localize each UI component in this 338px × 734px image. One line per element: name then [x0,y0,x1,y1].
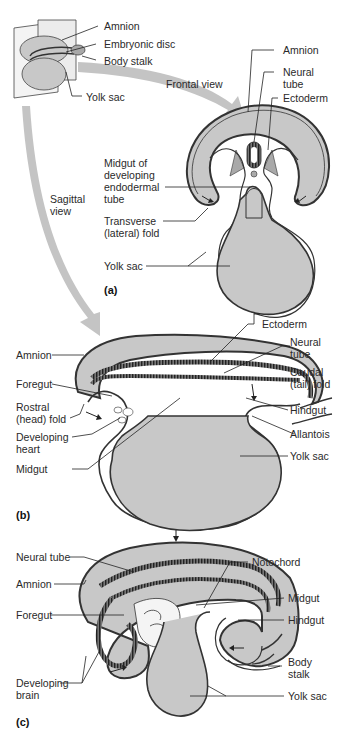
inset-label-yolk-sac: Yolk sac [86,91,125,103]
b-label-allantois: Allantois [290,428,330,440]
b-label-caudal-2: (tail) fold [290,378,330,390]
frontal-view-label: Frontal view [166,78,223,90]
b-label-rostral-1: Rostral [16,401,49,413]
c-label-body-stalk-1: Body [288,656,312,668]
b-label-yolk-sac: Yolk sac [290,450,329,462]
sagittal-view-arrow [22,106,100,336]
c-label-brain-2: brain [16,689,39,701]
b-label-neural-tube-1: Neural [290,336,321,348]
b-label-caudal-1: Caudal [290,366,323,378]
b-label-neural-tube-2: tube [290,348,310,360]
c-label-body-stalk-2: stalk [288,668,310,680]
a-label-midgut-4: tube [104,193,124,205]
a-label-transverse-1: Transverse [104,215,156,227]
inset-label-amnion: Amnion [104,20,140,32]
inset-3d-embryo [14,20,85,98]
b-label-hindgut: Hindgut [290,404,326,416]
panel-c-tag: (c) [16,716,29,728]
inset-label-embryonic-disc: Embryonic disc [104,38,175,50]
a-label-neural-tube-2: tube [283,78,303,90]
c-label-yolk-sac: Yolk sac [288,690,327,702]
b-label-heart-2: heart [16,443,40,455]
a-label-yolk-sac: Yolk sac [104,260,143,272]
b-label-rostral-2: (head) fold [16,413,66,425]
down-arrow-icon [173,530,179,542]
panel-a-tag: (a) [104,284,117,296]
a-label-transverse-2: (lateral) fold [104,227,159,239]
a-label-midgut-1: Midgut of [104,157,147,169]
b-label-heart-1: Developing [16,431,69,443]
c-label-amnion: Amnion [16,578,52,590]
sagittal-view-label-line2: view [50,205,71,217]
inset-label-body-stalk: Body stalk [104,55,152,67]
a-label-midgut-3: endodermal [104,181,159,193]
c-label-foregut: Foregut [16,609,52,621]
panel-a-section [187,105,329,317]
a-label-ectoderm: Ectoderm [283,92,328,104]
embryo-folding-figure: Amnion Embryonic disc Body stalk Yolk sa… [0,0,338,734]
c-label-notochord: Notochord [252,556,300,568]
b-label-midgut: Midgut [16,463,48,475]
panel-b-tag: (b) [16,509,30,521]
b-label-ectoderm: Ectoderm [262,318,307,330]
b-label-foregut: Foregut [16,378,52,390]
c-label-neural-tube: Neural tube [16,551,70,563]
a-label-midgut-2: developing [104,169,155,181]
c-label-brain-1: Developing [16,677,69,689]
a-label-neural-tube-1: Neural [283,66,314,78]
panel-c-section [80,543,299,716]
sagittal-view-label-line1: Sagittal [50,193,85,205]
c-label-hindgut: Hindgut [288,614,324,626]
b-label-amnion: Amnion [16,349,52,361]
a-label-amnion: Amnion [283,44,319,56]
c-label-midgut: Midgut [288,592,320,604]
